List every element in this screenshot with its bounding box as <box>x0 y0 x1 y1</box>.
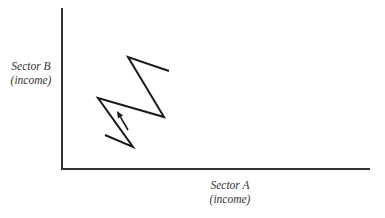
x-axis-label: Sector A (income) <box>190 178 270 206</box>
y-axis-label: Sector B (income) <box>2 59 60 87</box>
x-axis-label-line1: Sector A <box>190 178 270 192</box>
y-axis-label-line1: Sector B <box>2 59 60 73</box>
zigzag-path <box>98 57 169 147</box>
y-axis-label-line2: (income) <box>2 73 60 87</box>
x-axis-label-line2: (income) <box>190 192 270 206</box>
